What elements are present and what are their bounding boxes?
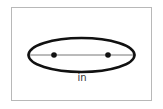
focus-point-left — [51, 52, 57, 58]
unit-label: in — [72, 72, 92, 84]
ellipse-diagram — [0, 0, 163, 109]
focus-point-right — [105, 52, 111, 58]
